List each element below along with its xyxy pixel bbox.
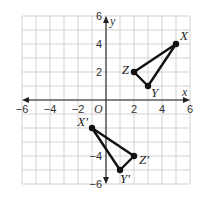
vertex-label: Z: [122, 62, 130, 77]
vertex-label: Y: [151, 85, 160, 100]
y-tick-label: 2: [96, 66, 102, 78]
vertex-point: [173, 41, 179, 47]
y-axis-label: y: [109, 14, 116, 28]
x-tick-label: 4: [159, 103, 165, 115]
x-tick-label: −6: [16, 103, 29, 115]
x-axis-label: x: [181, 85, 188, 99]
vertex-label: Y′: [120, 171, 130, 186]
vertex-point: [131, 153, 137, 159]
y-tick-label: −6: [89, 178, 102, 190]
triangle-x-prime-y-prime-z-prime: [92, 128, 134, 170]
y-tick-label: −4: [89, 150, 102, 162]
x-tick-label: 6: [187, 103, 193, 115]
coordinate-plane: −6−4−2246642−4−6Oxy XYZX′Y′Z′: [0, 0, 199, 197]
vertex-label: X′: [76, 114, 88, 129]
x-tick-label: 2: [131, 103, 137, 115]
vertex-point: [89, 125, 95, 131]
axes: [22, 16, 190, 184]
y-axis-arrow-up-icon: [103, 16, 109, 23]
triangle-xyz: [134, 44, 176, 86]
vertex-point: [131, 69, 137, 75]
y-tick-label: 4: [96, 38, 102, 50]
origin-label: O: [94, 102, 103, 116]
y-axis-arrow-down-icon: [103, 177, 109, 184]
x-tick-label: −4: [44, 103, 57, 115]
vertex-label: X: [179, 28, 189, 43]
y-tick-label: 6: [96, 10, 102, 22]
vertex-label: Z′: [139, 152, 149, 167]
